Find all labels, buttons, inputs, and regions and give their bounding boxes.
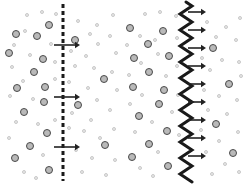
- osmosis-diffusion-figure: [0, 0, 245, 185]
- dashed-membrane: [0, 0, 122, 185]
- dashed-membrane-panel: [0, 0, 122, 185]
- flow-arrow: [54, 42, 80, 48]
- flow-arrow: [54, 144, 80, 150]
- wavy-membrane: [122, 0, 245, 185]
- flow-arrow: [54, 94, 80, 100]
- flow-arrow: [188, 27, 206, 33]
- flow-arrow: [188, 9, 206, 15]
- flow-arrow: [188, 45, 206, 51]
- wavy-membrane-panel: [122, 0, 245, 185]
- flow-arrow: [188, 153, 206, 159]
